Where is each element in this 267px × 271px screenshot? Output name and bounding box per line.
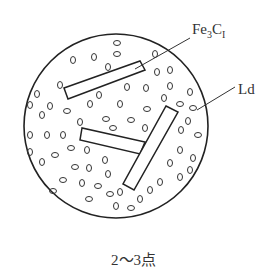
ledeburite-label: Ld	[238, 81, 255, 97]
ld-leader-line	[197, 87, 235, 110]
diagram-caption: 2～3点	[0, 248, 267, 269]
microstructure-diagram: Fe3CI Ld	[0, 0, 267, 271]
cementite-label: Fe3CI	[192, 21, 225, 40]
cementite-bar-top	[64, 61, 145, 99]
ledeburite-particles	[28, 41, 202, 211]
cementite-leader-line	[135, 38, 190, 69]
